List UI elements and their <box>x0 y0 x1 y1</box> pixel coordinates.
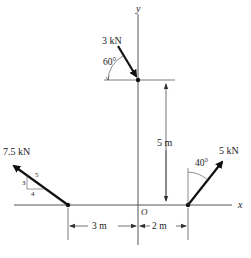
force-3kn-label: 3 kN <box>102 35 122 46</box>
force-3kn-arrow <box>118 46 136 76</box>
x-axis-label: x <box>237 199 243 210</box>
force-5kn-arrow <box>188 162 222 205</box>
angle-arc-40 <box>188 172 208 180</box>
slope-hyp-label: 5 <box>35 171 39 179</box>
angle-60-label: 60° <box>103 57 117 67</box>
angle-arc-60-tick <box>106 76 109 80</box>
force-diagram: y x O 3 kN 60° 7.5 kN 5 3 4 5 kN 40° 5 m… <box>0 0 251 258</box>
y-axis-label: y <box>135 3 141 14</box>
angle-40-label: 40° <box>195 158 209 168</box>
slope-rise-label: 3 <box>22 179 26 187</box>
force-7-5kn-label: 7.5 kN <box>3 146 30 157</box>
point-7-5kn <box>66 203 70 207</box>
origin-label: O <box>141 207 148 217</box>
point-3kn <box>136 78 140 82</box>
slope-run-label: 4 <box>31 190 35 198</box>
dimension-5m-label: 5 m <box>157 137 173 148</box>
dimension-2m-label: 2 m <box>152 221 167 231</box>
dimension-3m-label: 3 m <box>92 221 107 231</box>
force-5kn-label: 5 kN <box>219 145 239 156</box>
